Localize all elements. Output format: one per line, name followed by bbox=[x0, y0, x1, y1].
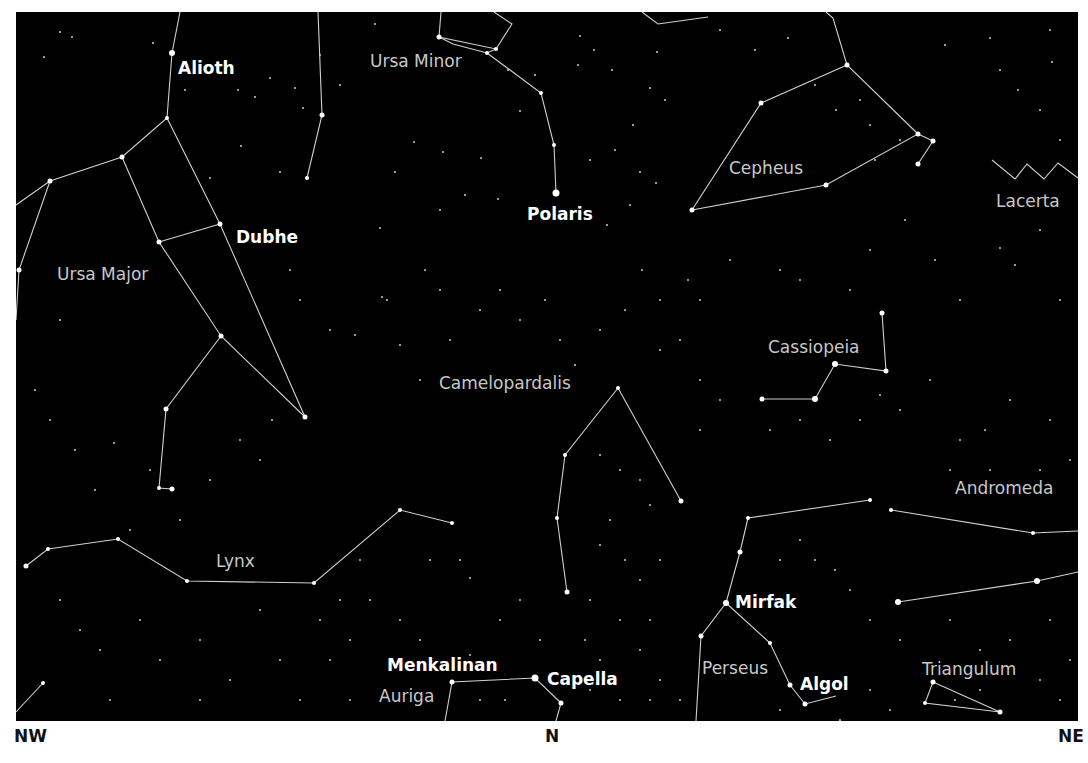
faint-star bbox=[611, 69, 613, 71]
faint-star bbox=[424, 269, 426, 271]
faint-star bbox=[199, 639, 201, 641]
faint-star bbox=[649, 504, 651, 506]
faint-star bbox=[899, 409, 901, 411]
faint-star bbox=[834, 569, 836, 571]
faint-star bbox=[49, 419, 51, 421]
faint-star bbox=[1059, 699, 1061, 701]
star bbox=[17, 268, 22, 273]
faint-star bbox=[859, 419, 861, 421]
faint-star bbox=[699, 379, 701, 381]
faint-star bbox=[659, 349, 661, 351]
faint-star bbox=[599, 544, 601, 546]
faint-star bbox=[829, 439, 831, 441]
faint-star bbox=[979, 689, 981, 691]
faint-star bbox=[614, 149, 616, 151]
faint-star bbox=[779, 709, 781, 711]
faint-star bbox=[869, 619, 871, 621]
faint-star bbox=[779, 269, 781, 271]
star bbox=[565, 590, 570, 595]
faint-star bbox=[386, 299, 388, 301]
faint-star bbox=[606, 224, 608, 226]
compass-label-n: N bbox=[545, 726, 559, 746]
faint-star bbox=[874, 159, 876, 161]
faint-star bbox=[497, 198, 499, 200]
faint-star bbox=[329, 659, 331, 661]
faint-star bbox=[349, 639, 351, 641]
star bbox=[219, 334, 224, 339]
faint-star bbox=[149, 469, 151, 471]
faint-star bbox=[59, 319, 61, 321]
star bbox=[616, 386, 620, 390]
faint-star bbox=[639, 649, 641, 651]
faint-star bbox=[339, 84, 341, 86]
star bbox=[931, 139, 936, 144]
star bbox=[157, 486, 161, 490]
faint-star bbox=[74, 449, 76, 451]
faint-star bbox=[271, 419, 273, 421]
faint-star bbox=[719, 29, 721, 31]
faint-star bbox=[899, 639, 901, 641]
star bbox=[320, 113, 325, 118]
constellation-label: Ursa Minor bbox=[370, 51, 462, 71]
faint-star bbox=[769, 429, 771, 431]
faint-star bbox=[589, 159, 591, 161]
star-map: Ursa MinorCepheusLacertaUrsa MajorCassio… bbox=[0, 0, 1088, 763]
faint-star bbox=[639, 479, 641, 481]
star bbox=[169, 50, 175, 56]
faint-star bbox=[619, 469, 621, 471]
faint-star bbox=[624, 559, 626, 561]
faint-star bbox=[624, 309, 626, 311]
faint-star bbox=[439, 289, 441, 291]
faint-star bbox=[869, 689, 871, 691]
star bbox=[24, 564, 29, 569]
faint-star bbox=[59, 31, 61, 33]
faint-star bbox=[1039, 229, 1041, 231]
faint-star bbox=[79, 629, 81, 631]
compass-label-ne: NE bbox=[1058, 726, 1084, 746]
faint-star bbox=[1051, 61, 1053, 63]
faint-star bbox=[209, 177, 211, 179]
compass-label-nw: NW bbox=[14, 726, 47, 746]
faint-star bbox=[99, 649, 101, 651]
faint-star bbox=[899, 139, 901, 141]
faint-star bbox=[869, 124, 871, 126]
faint-star bbox=[889, 709, 891, 711]
faint-star bbox=[480, 157, 482, 159]
faint-star bbox=[609, 519, 611, 521]
faint-star bbox=[649, 87, 651, 89]
star bbox=[398, 508, 402, 512]
star bbox=[824, 183, 829, 188]
faint-star bbox=[1049, 419, 1051, 421]
star bbox=[185, 579, 189, 583]
faint-star bbox=[599, 659, 601, 661]
faint-star bbox=[299, 299, 301, 301]
faint-star bbox=[289, 269, 291, 271]
faint-star bbox=[113, 442, 115, 444]
faint-star bbox=[381, 296, 383, 298]
faint-star bbox=[859, 99, 861, 101]
faint-star bbox=[419, 639, 421, 641]
faint-star bbox=[787, 37, 789, 39]
faint-star bbox=[1069, 459, 1071, 461]
star bbox=[845, 63, 850, 68]
faint-star bbox=[519, 319, 521, 321]
faint-star bbox=[599, 329, 601, 331]
faint-star bbox=[641, 269, 643, 271]
star bbox=[305, 176, 309, 180]
star bbox=[931, 680, 936, 685]
faint-star bbox=[519, 599, 521, 601]
faint-star bbox=[659, 299, 661, 301]
faint-star bbox=[1017, 89, 1019, 91]
faint-star bbox=[379, 227, 381, 229]
star-name-label: Alioth bbox=[178, 58, 235, 78]
faint-star bbox=[544, 299, 546, 301]
star-name-label: Menkalinan bbox=[387, 655, 498, 675]
faint-star bbox=[799, 279, 801, 281]
faint-star bbox=[959, 299, 961, 301]
faint-star bbox=[849, 589, 851, 591]
faint-star bbox=[584, 639, 586, 641]
faint-star bbox=[814, 559, 816, 561]
faint-star bbox=[655, 182, 657, 184]
star bbox=[1034, 578, 1040, 584]
faint-star bbox=[349, 699, 351, 701]
